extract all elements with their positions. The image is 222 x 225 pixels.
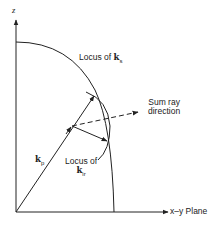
ks-subscript: s	[119, 58, 122, 64]
kp-label: kp	[35, 155, 44, 166]
sum-ray-label: Sum raydirection	[148, 98, 180, 117]
kir-subscript: ir	[82, 171, 85, 177]
locus-ks-label: Locus of ks	[79, 53, 122, 64]
locus-ks-text: Locus of	[79, 52, 114, 62]
kir-vector	[72, 126, 107, 141]
sum-ray-line2: direction	[148, 107, 180, 116]
diagram-canvas	[0, 0, 222, 225]
kp-subscript: p	[41, 160, 44, 166]
kp-vector	[16, 96, 94, 212]
xy-plane-label: x–y Plane	[170, 207, 207, 216]
xy-plane-text: x–y Plane	[170, 206, 207, 216]
z-axis-label: z	[12, 6, 15, 15]
locus-kir-label: Locus ofkir	[65, 157, 97, 178]
locus-ks-curve	[16, 42, 114, 212]
